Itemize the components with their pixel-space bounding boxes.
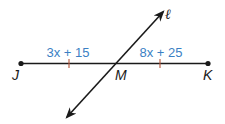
expression-jm-text: 3x + 15	[46, 45, 89, 60]
label-m: M	[115, 67, 127, 83]
label-j: J	[11, 67, 20, 83]
expression-jm: 3x + 15	[46, 45, 89, 60]
diagram-canvas: ℓ 3x + 15 8x + 25 J M K	[0, 0, 225, 124]
label-k: K	[203, 67, 213, 83]
line-l-label: ℓ	[165, 7, 171, 22]
point-k	[205, 61, 210, 66]
point-j	[18, 61, 23, 66]
expression-mk-text: 8x + 25	[139, 45, 182, 60]
line-l	[67, 12, 163, 117]
expression-mk: 8x + 25	[139, 45, 182, 60]
